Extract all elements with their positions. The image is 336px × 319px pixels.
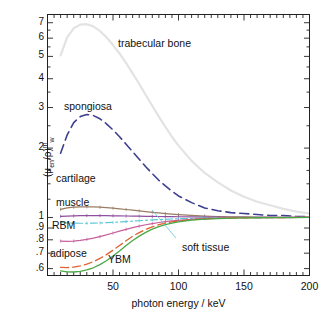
subscript-en: en: [48, 160, 55, 168]
mu-symbol: μ: [42, 168, 53, 174]
series-group: [61, 24, 310, 272]
series-label-cartilage: cartilage: [56, 172, 96, 184]
y-tick-label: 2: [22, 141, 44, 152]
x-axis-label: photon energy / keV: [47, 297, 310, 309]
y-tick-label: .8: [22, 233, 44, 244]
series-label-spongiosa: spongiosa: [64, 100, 112, 112]
y-tick-label: 3: [22, 101, 44, 112]
y-tick-label: 4: [22, 72, 44, 83]
series-label-RBM: RBM: [52, 219, 75, 231]
series-label-trabecular-bone: trabecular bone: [118, 37, 191, 49]
series-label-muscle: muscle: [56, 196, 89, 208]
series-line-spongiosa: [61, 114, 310, 216]
y-tick-label: 1: [22, 210, 44, 221]
y-tick-label: .9: [22, 221, 44, 232]
y-tick-label: .7: [22, 246, 44, 257]
series-label-YBM: YBM: [108, 253, 131, 265]
subscript-w: w: [48, 137, 55, 142]
figure-container: (μen/ρ)mw photon energy / keV .6.7.8.912…: [0, 0, 336, 319]
y-tick-label: .6: [22, 262, 44, 273]
x-tick-label: 150: [224, 280, 264, 292]
series-label-adipose: adipose: [50, 247, 87, 259]
series-line-trabecular-bone: [61, 24, 310, 213]
y-tick-label: 6: [22, 31, 44, 42]
y-axis-label: (μen/ρ)mw: [41, 97, 55, 217]
series-label-soft-tissue: soft tissue: [182, 241, 229, 253]
y-tick-label: 7: [22, 16, 44, 27]
x-tick-label: 200: [290, 280, 330, 292]
x-tick-label: 50: [93, 280, 133, 292]
x-tick-label: 100: [159, 280, 199, 292]
y-tick-label: 5: [22, 49, 44, 60]
